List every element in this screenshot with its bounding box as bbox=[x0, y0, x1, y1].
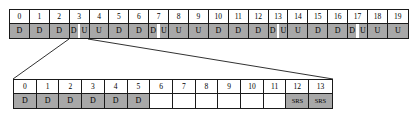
diagram-canvas: 012345678910111213141516171819 DDDDUUDDD… bbox=[0, 0, 416, 121]
radio-frame-split-cell: DU bbox=[269, 24, 289, 38]
expanded-subframe-index-cell: 1 bbox=[37, 80, 60, 93]
expanded-subframe-empty-cell bbox=[150, 94, 173, 108]
radio-frame-split-cell: DU bbox=[348, 24, 368, 38]
radio-frame-data-cell: U bbox=[169, 24, 189, 38]
callout-line-right bbox=[88, 39, 333, 79]
radio-frame-index-cell: 17 bbox=[348, 10, 368, 23]
expanded-subframe-empty-cell bbox=[196, 94, 219, 108]
radio-frame-index-cell: 8 bbox=[169, 10, 189, 23]
radio-frame-index-cell: 18 bbox=[368, 10, 388, 23]
radio-frame-data-cell: D bbox=[209, 24, 229, 38]
radio-frame-data-cell: D bbox=[109, 24, 129, 38]
expanded-subframe-index-cell: 10 bbox=[241, 80, 264, 93]
expanded-subframe-index-cell: 12 bbox=[286, 80, 309, 93]
radio-frame-data-cell: U bbox=[90, 24, 110, 38]
radio-frame-index-cell: 13 bbox=[269, 10, 289, 23]
radio-frame-split-cell: DU bbox=[70, 24, 90, 38]
expanded-subframe-index-cell: 5 bbox=[128, 80, 151, 93]
expanded-subframe-data-row: DDDDDDSRSSRS bbox=[14, 93, 332, 108]
expanded-subframe-index-cell: 13 bbox=[309, 80, 332, 93]
radio-frame-index-cell: 16 bbox=[328, 10, 348, 23]
expanded-subframe-index-cell: 8 bbox=[196, 80, 219, 93]
expanded-subframe-data-cell: SRS bbox=[286, 94, 309, 108]
expanded-subframe-data-cell: D bbox=[37, 94, 60, 108]
expanded-subframe-index-cell: 9 bbox=[218, 80, 241, 93]
expanded-subframe-table: 012345678910111213 DDDDDDSRSSRS bbox=[13, 79, 333, 109]
radio-frame-index-cell: 5 bbox=[109, 10, 129, 23]
expanded-subframe-data-cell: D bbox=[128, 94, 151, 108]
radio-frame-data-cell: U bbox=[189, 24, 209, 38]
expanded-subframe-index-cell: 6 bbox=[150, 80, 173, 93]
expanded-subframe-data-cell: SRS bbox=[309, 94, 332, 108]
radio-frame-index-cell: 7 bbox=[149, 10, 169, 23]
radio-frame-index-cell: 10 bbox=[209, 10, 229, 23]
radio-frame-index-cell: 3 bbox=[70, 10, 90, 23]
radio-frame-index-cell: 6 bbox=[129, 10, 149, 23]
radio-frame-data-cell: D bbox=[50, 24, 70, 38]
expanded-subframe-data-cell: D bbox=[14, 94, 37, 108]
radio-frame-index-cell: 11 bbox=[229, 10, 249, 23]
expanded-subframe-index-cell: 4 bbox=[105, 80, 128, 93]
radio-frame-data-cell: D bbox=[30, 24, 50, 38]
radio-frame-data-cell: D bbox=[249, 24, 269, 38]
radio-frame-data-row: DDDDUUDDDUUUDDDDUUDDDUUU bbox=[10, 23, 408, 38]
radio-frame-index-cell: 1 bbox=[30, 10, 50, 23]
radio-frame-index-cell: 2 bbox=[50, 10, 70, 23]
radio-frame-index-cell: 15 bbox=[308, 10, 328, 23]
radio-frame-index-cell: 9 bbox=[189, 10, 209, 23]
radio-frame-data-cell: D bbox=[129, 24, 149, 38]
radio-frame-index-cell: 4 bbox=[90, 10, 110, 23]
radio-frame-index-cell: 12 bbox=[249, 10, 269, 23]
expanded-subframe-index-cell: 0 bbox=[14, 80, 37, 93]
radio-frame-data-cell: D bbox=[328, 24, 348, 38]
callout-line-left bbox=[13, 39, 69, 79]
radio-frame-split-segment-downlink: D bbox=[269, 24, 277, 38]
radio-frame-data-cell: U bbox=[388, 24, 408, 38]
radio-frame-data-cell: D bbox=[10, 24, 30, 38]
radio-frame-data-cell: U bbox=[288, 24, 308, 38]
expanded-subframe-data-cell: D bbox=[59, 94, 82, 108]
radio-frame-data-cell: D bbox=[308, 24, 328, 38]
radio-frame-table: 012345678910111213141516171819 DDDDUUDDD… bbox=[9, 9, 409, 39]
expanded-subframe-index-cell: 2 bbox=[59, 80, 82, 93]
radio-frame-split-cell: DU bbox=[149, 24, 169, 38]
expanded-subframe-empty-cell bbox=[218, 94, 241, 108]
radio-frame-index-cell: 19 bbox=[388, 10, 408, 23]
expanded-subframe-empty-cell bbox=[241, 94, 264, 108]
radio-frame-split-segment-uplink: U bbox=[80, 24, 88, 38]
radio-frame-data-cell: U bbox=[368, 24, 388, 38]
expanded-subframe-index-cell: 11 bbox=[264, 80, 287, 93]
radio-frame-split-segment-uplink: U bbox=[279, 24, 287, 38]
expanded-subframe-index-row: 012345678910111213 bbox=[14, 80, 332, 93]
radio-frame-split-segment-downlink: D bbox=[70, 24, 78, 38]
expanded-subframe-index-cell: 3 bbox=[82, 80, 105, 93]
expanded-subframe-data-cell: D bbox=[105, 94, 128, 108]
radio-frame-split-segment-uplink: U bbox=[160, 24, 168, 38]
expanded-subframe-index-cell: 7 bbox=[173, 80, 196, 93]
radio-frame-data-cell: D bbox=[229, 24, 249, 38]
radio-frame-split-segment-uplink: U bbox=[359, 24, 367, 38]
expanded-subframe-data-cell: D bbox=[82, 94, 105, 108]
expanded-subframe-empty-cell bbox=[264, 94, 287, 108]
radio-frame-split-segment-downlink: D bbox=[348, 24, 356, 38]
radio-frame-index-cell: 0 bbox=[10, 10, 30, 23]
radio-frame-split-segment-downlink: D bbox=[149, 24, 157, 38]
expanded-subframe-empty-cell bbox=[173, 94, 196, 108]
radio-frame-index-row: 012345678910111213141516171819 bbox=[10, 10, 408, 23]
radio-frame-index-cell: 14 bbox=[288, 10, 308, 23]
